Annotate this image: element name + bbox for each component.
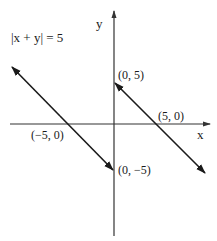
line-x-plus-y-eq-neg5 [12,67,60,116]
line-x-plus-y-eq-5 [115,83,160,128]
point-label-0-neg5: (0, −5) [118,164,151,176]
graph-figure: |x + y| = 5 y x (0, 5) (5, 0) (−5, 0) (0… [0,0,217,241]
y-axis-label: y [96,17,103,30]
point-label-neg5-0: (−5, 0) [31,129,64,141]
point-label-0-5: (0, 5) [118,69,144,81]
equation-title: |x + y| = 5 [11,31,63,44]
x-axis-label: x [197,128,204,141]
point-label-5-0: (5, 0) [158,110,184,122]
